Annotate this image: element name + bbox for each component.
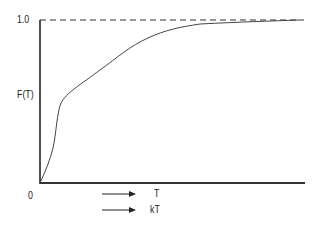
y-tick-label-top: 1.0: [17, 13, 29, 25]
x-axis-label: T: [154, 187, 159, 199]
x-axis-label-secondary: kT: [150, 203, 160, 215]
origin-label: 0: [28, 189, 33, 201]
arrow-icon: [102, 207, 136, 213]
arrow-icon: [102, 191, 136, 197]
cdf-curve: [40, 20, 300, 183]
y-axis-label: F(T): [17, 88, 34, 100]
